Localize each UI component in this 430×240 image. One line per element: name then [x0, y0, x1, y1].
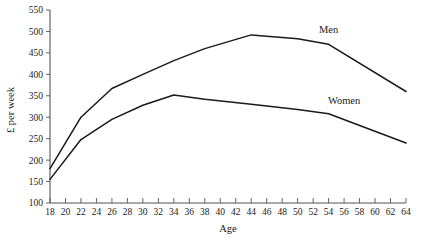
x-tick-label: 40: [216, 207, 226, 217]
x-tick-label: 28: [123, 207, 133, 217]
x-tick-label: 52: [308, 207, 318, 217]
x-tick-label: 38: [200, 207, 210, 217]
y-tick-label: 550: [29, 5, 44, 15]
x-tick-label: 44: [246, 207, 256, 217]
y-tick-label: 300: [29, 113, 44, 123]
x-tick-label: 32: [154, 207, 164, 217]
y-axis-title: £ per week: [5, 86, 16, 133]
x-tick-label: 30: [138, 207, 148, 217]
x-tick-label: 54: [324, 207, 334, 217]
x-tick-label: 18: [45, 207, 55, 217]
series-lines: [50, 35, 406, 180]
series-label-men: Men: [319, 24, 339, 35]
x-tick-label: 50: [293, 207, 303, 217]
y-axis-tick-labels: 100150200250300350400450500550: [29, 5, 44, 208]
y-tick-label: 450: [29, 48, 44, 58]
x-tick-label: 34: [169, 207, 179, 217]
y-tick-label: 250: [29, 134, 44, 144]
x-tick-label: 62: [386, 207, 396, 217]
y-tick-label: 350: [29, 91, 44, 101]
x-tick-label: 60: [370, 207, 380, 217]
x-tick-label: 42: [231, 207, 241, 217]
x-axis-tick-labels: 1820222426283032343638404244464850525456…: [45, 207, 411, 217]
y-tick-label: 150: [29, 177, 44, 187]
x-tick-label: 56: [339, 207, 349, 217]
x-tick-label: 48: [277, 207, 287, 217]
x-tick-label: 24: [92, 207, 102, 217]
y-tick-label: 500: [29, 27, 44, 37]
series-label-women: Women: [328, 95, 361, 106]
line-chart: 100150200250300350400450500550 182022242…: [0, 0, 430, 240]
x-tick-label: 58: [355, 207, 365, 217]
x-axis-ticks: [50, 198, 406, 203]
y-axis-ticks: [46, 10, 50, 203]
y-tick-label: 100: [29, 198, 44, 208]
y-tick-label: 200: [29, 156, 44, 166]
x-tick-label: 22: [76, 207, 86, 217]
x-tick-label: 46: [262, 207, 272, 217]
x-tick-label: 36: [185, 207, 195, 217]
y-tick-label: 400: [29, 70, 44, 80]
series-annotations: MenWomen: [319, 24, 361, 107]
chart-canvas: 100150200250300350400450500550 182022242…: [0, 0, 430, 240]
x-axis-title: Age: [219, 223, 237, 234]
x-tick-label: 64: [401, 207, 411, 217]
x-tick-label: 20: [61, 207, 71, 217]
series-line-women: [50, 95, 406, 179]
x-tick-label: 26: [107, 207, 117, 217]
